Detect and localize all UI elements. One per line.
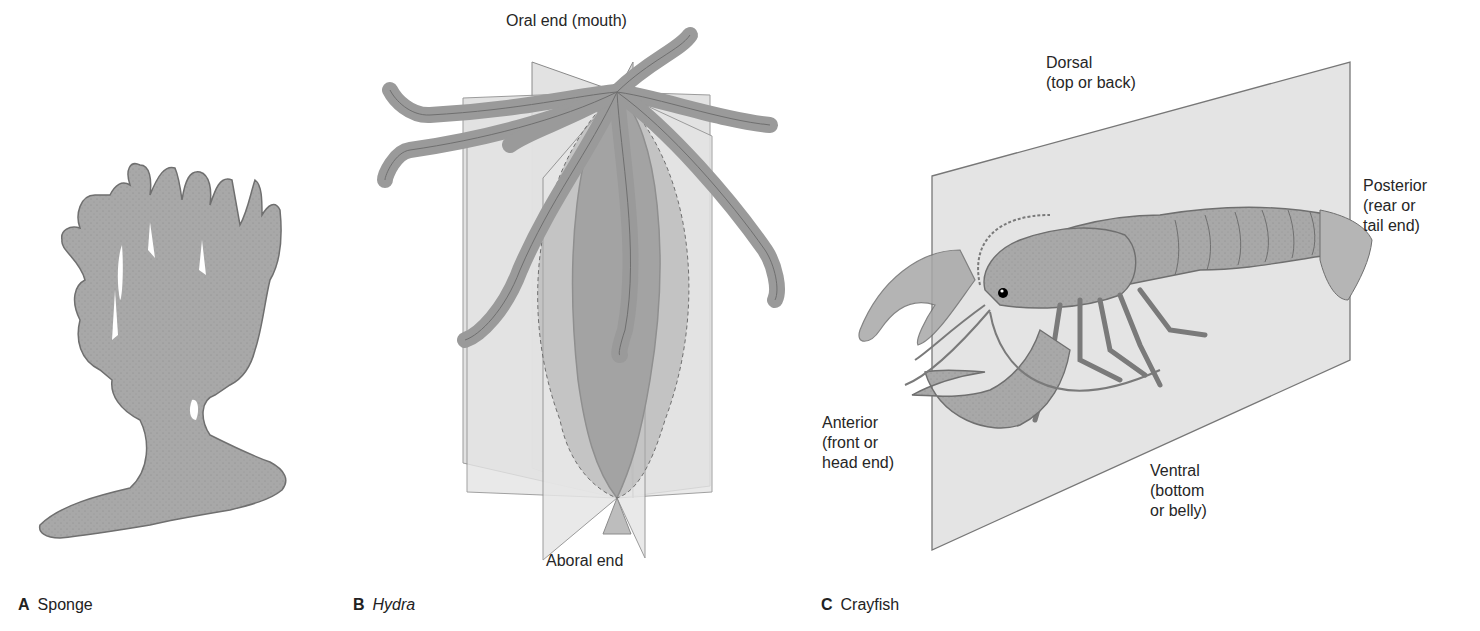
caption-a: ASponge (18, 596, 93, 614)
caption-a-letter: A (18, 596, 30, 613)
label-aboral-end: Aboral end (546, 551, 623, 571)
caption-b: BHydra (353, 596, 415, 614)
hydra-illustration (385, 35, 777, 560)
figure-artwork (0, 0, 1480, 631)
label-oral-end: Oral end (mouth) (506, 11, 627, 31)
caption-b-letter: B (353, 596, 365, 613)
caption-b-name: Hydra (373, 596, 416, 613)
caption-c-letter: C (821, 596, 833, 613)
caption-c: CCrayfish (821, 596, 899, 614)
crayfish-illustration (859, 62, 1372, 550)
label-posterior: Posterior (rear or tail end) (1363, 176, 1427, 236)
label-anterior: Anterior (front or head end) (822, 413, 894, 473)
caption-c-name: Crayfish (841, 596, 900, 613)
caption-a-name: Sponge (38, 596, 93, 613)
label-dorsal: Dorsal (top or back) (1046, 53, 1136, 93)
label-ventral: Ventral (bottom or belly) (1150, 461, 1207, 521)
sponge-illustration (40, 164, 286, 538)
